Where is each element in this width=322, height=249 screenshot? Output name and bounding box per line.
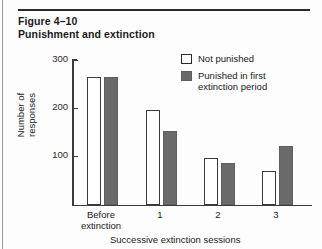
y-axis-title-line1: Number of xyxy=(15,93,26,137)
x-label-session-1: 1 xyxy=(145,209,175,220)
legend-label-punished-line2: extinction period xyxy=(198,81,267,92)
bar-not-punished-3 xyxy=(262,171,276,205)
x-label-session-3: 3 xyxy=(261,209,291,220)
x-label-session-2: 2 xyxy=(203,209,233,220)
y-tick-100 xyxy=(72,156,78,158)
y-axis-line xyxy=(72,59,74,206)
bar-punished-2 xyxy=(221,163,235,205)
y-tick-label-100: 100 xyxy=(52,149,68,160)
bar-punished-3 xyxy=(279,146,293,205)
y-tick-200 xyxy=(72,108,78,110)
bar-punished-before xyxy=(104,77,118,205)
bar-punished-1 xyxy=(163,131,177,205)
y-tick-label-100-wrap: 100 xyxy=(44,149,68,161)
bar-not-punished-before xyxy=(87,77,101,205)
y-tick-label-200-wrap: 200 xyxy=(44,101,68,113)
bar-not-punished-1 xyxy=(146,110,160,205)
y-tick-label-300: 300 xyxy=(52,53,68,64)
y-tick-300 xyxy=(72,60,78,62)
bar-chart: 300 200 100 Number of responses Before e… xyxy=(0,0,322,249)
figure-page: Figure 4–10 Punishment and extinction 30… xyxy=(0,0,322,249)
chart-legend: Not punished Punished in first extinctio… xyxy=(181,53,267,98)
y-tick-label-200: 200 xyxy=(52,101,68,112)
x-label-before-extinction-line1: Before xyxy=(87,209,115,220)
legend-swatch-open-icon xyxy=(181,54,192,64)
legend-label-not-punished: Not punished xyxy=(198,53,254,64)
bar-not-punished-2 xyxy=(204,158,218,205)
x-label-before-extinction-line2: extinction xyxy=(81,220,121,231)
y-axis-title: Number of responses xyxy=(15,77,37,153)
legend-swatch-filled-icon xyxy=(181,71,192,81)
legend-item-punished: Punished in first extinction period xyxy=(181,70,267,92)
y-axis-title-line2: responses xyxy=(26,93,37,137)
x-axis-title: Successive extinction sessions xyxy=(110,234,240,245)
legend-item-not-punished: Not punished xyxy=(181,53,267,64)
y-tick-label-300-wrap: 300 xyxy=(44,53,68,65)
x-label-before-extinction: Before extinction xyxy=(73,209,129,231)
legend-label-punished: Punished in first extinction period xyxy=(198,70,267,92)
legend-label-punished-line1: Punished in first xyxy=(198,70,266,81)
